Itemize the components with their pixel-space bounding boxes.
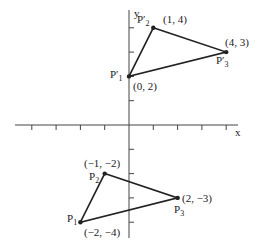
label-p1-prime: P′1 <box>110 68 123 83</box>
vertex-point <box>78 220 82 224</box>
transformed-triangle <box>129 28 226 77</box>
coordinate-diagram: x y P′2 (1, 4) (4, 3) P′3 P′1 (0, 2) (−1… <box>0 0 262 251</box>
coord-p1-prime: (0, 2) <box>133 80 157 93</box>
label-p3: P3 <box>174 203 184 218</box>
coord-p1: (−2, −4) <box>84 226 121 239</box>
label-p3-prime: P′3 <box>216 54 229 69</box>
label-p1: P1 <box>67 212 77 227</box>
coord-p2-prime: (1, 4) <box>163 13 187 26</box>
x-axis-label: x <box>235 126 241 138</box>
coord-p3-prime: (4, 3) <box>225 36 249 49</box>
vertex-point <box>103 171 107 175</box>
label-p2: P2 <box>89 170 99 185</box>
vertex-point <box>224 50 228 54</box>
vertex-point <box>175 196 179 200</box>
label-p2-prime: P′2 <box>137 13 150 28</box>
coord-p3: (2, −3) <box>182 192 212 205</box>
coord-p2: (−1, −2) <box>84 157 121 170</box>
vertex-point <box>127 74 131 78</box>
diagram-svg: x y P′2 (1, 4) (4, 3) P′3 P′1 (0, 2) (−1… <box>0 0 262 251</box>
vertex-point <box>151 26 155 30</box>
